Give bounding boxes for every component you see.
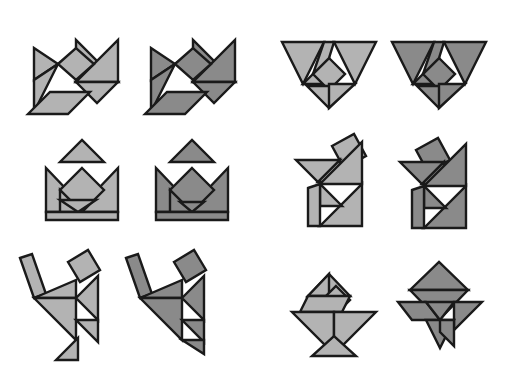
tangram-figure-dancer-dark [118,242,210,366]
tangram-piece-small-triangle-2 [56,338,78,360]
tangram-piece-small-triangle-2 [320,184,342,206]
tangram-svg-cat-light [288,126,380,232]
tangram-figure-rocket-light [286,256,382,360]
tangram-piece-small-triangle-2 [182,340,204,354]
tangram-svg-dancer-light [12,242,104,366]
tangram-svg-vase-light [38,128,126,220]
tangram-figure-boat-light [276,28,384,108]
tangram-svg-dancer-dark [118,242,210,366]
tangram-piece-small-triangle-1 [60,140,104,162]
tangram-piece-small-triangle-1 [308,274,329,296]
tangram-figure-rocket-dark [392,256,488,360]
tangram-figure-dancer-light [12,242,104,366]
tangram-piece-large-triangle-1 [140,298,182,340]
tangram-piece-medium-triangle [454,302,482,330]
tangram-piece-large-triangle-1 [34,298,76,340]
tangram-piece-large-triangle-1 [410,262,468,290]
tangram-piece-parallelogram [412,186,424,228]
tangram-figure-cat-light [288,126,380,232]
tangram-svg-vase-dark [148,128,236,220]
tangram-figure-fish-dark [131,12,251,122]
tangram-figure-fish-light [14,12,134,122]
tangram-svg-rocket-light [286,256,382,360]
tangram-piece-small-triangle-1 [76,320,98,342]
tangram-piece-small-triangle-2 [439,84,465,108]
tangram-board [0,0,506,372]
tangram-piece-parallelogram [20,254,46,298]
tangram-piece-small-triangle-1 [182,320,204,342]
tangram-svg-rocket-dark [392,256,488,360]
tangram-figure-boat-dark [386,28,494,108]
tangram-figure-cat-dark [394,126,486,232]
tangram-piece-parallelogram [126,254,152,298]
tangram-piece-parallelogram [46,212,118,220]
tangram-svg-cat-dark [394,126,486,232]
tangram-figure-vase-light [38,128,126,220]
tangram-svg-fish-light [14,12,134,122]
tangram-figure-vase-dark [148,128,236,220]
tangram-piece-parallelogram [300,296,350,312]
tangram-svg-boat-dark [386,28,494,108]
tangram-piece-small-triangle-2 [329,84,355,108]
tangram-piece-small-triangle-1 [170,140,214,162]
tangram-piece-parallelogram [308,184,320,226]
tangram-piece-small-triangle-2 [424,186,446,208]
tangram-piece-parallelogram [156,212,228,220]
tangram-svg-fish-dark [131,12,251,122]
tangram-svg-boat-light [276,28,384,108]
